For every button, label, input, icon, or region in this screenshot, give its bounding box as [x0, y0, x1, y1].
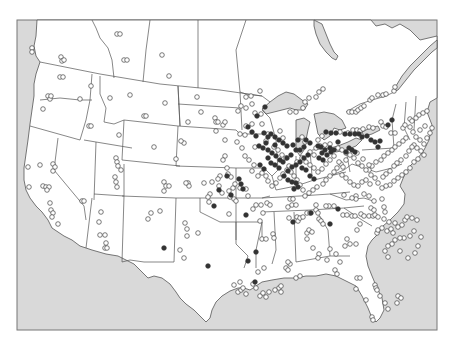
open-site-marker [361, 157, 366, 162]
open-site-marker [262, 266, 267, 271]
open-site-marker [321, 182, 326, 187]
open-site-marker [270, 184, 275, 189]
open-site-marker [115, 185, 120, 190]
open-site-marker [227, 212, 232, 217]
open-site-marker [382, 217, 387, 222]
open-site-marker [410, 119, 415, 124]
open-site-marker [264, 174, 269, 179]
open-site-marker [428, 131, 433, 136]
open-site-marker [368, 182, 373, 187]
open-site-marker [303, 194, 308, 199]
open-site-marker [404, 154, 409, 159]
open-site-marker [207, 200, 212, 205]
open-site-marker [342, 193, 347, 198]
open-site-marker [223, 120, 228, 125]
open-site-marker [354, 287, 359, 292]
open-site-marker [416, 244, 421, 249]
open-site-marker [301, 106, 306, 111]
open-site-marker [362, 192, 367, 197]
open-site-marker [286, 260, 291, 265]
open-site-marker [264, 295, 269, 300]
open-site-marker [247, 158, 252, 163]
open-site-marker [258, 89, 263, 94]
filled-site-marker [266, 156, 271, 161]
open-site-marker [78, 97, 83, 102]
open-site-marker [355, 228, 360, 233]
open-site-marker [391, 231, 396, 236]
open-site-marker [216, 120, 221, 125]
open-site-marker [250, 102, 255, 107]
open-site-marker [152, 145, 157, 150]
open-site-marker [258, 219, 263, 224]
open-site-marker [214, 129, 219, 134]
filled-site-marker [285, 156, 290, 161]
open-site-marker [410, 216, 415, 221]
open-site-marker [225, 166, 230, 171]
open-site-marker [266, 179, 271, 184]
open-site-marker [232, 283, 237, 288]
open-site-marker [114, 180, 119, 185]
filled-site-marker [304, 138, 309, 143]
filled-site-marker [343, 132, 348, 137]
open-site-marker [376, 93, 381, 98]
open-site-marker [53, 165, 58, 170]
filled-site-marker [254, 250, 259, 255]
filled-site-marker [308, 141, 313, 146]
filled-site-marker [298, 160, 303, 165]
filled-site-marker [253, 280, 258, 285]
open-site-marker [316, 256, 321, 261]
open-site-marker [312, 166, 317, 171]
open-site-marker [243, 133, 248, 138]
open-site-marker [314, 203, 319, 208]
open-site-marker [382, 154, 387, 159]
open-site-marker [30, 50, 35, 55]
filled-site-marker [261, 146, 266, 151]
open-site-marker [235, 140, 240, 145]
open-site-marker [61, 75, 66, 80]
open-site-marker [89, 124, 94, 129]
open-site-marker [399, 158, 404, 163]
open-site-marker [178, 248, 183, 253]
open-site-marker [254, 286, 259, 291]
open-site-marker [332, 204, 337, 209]
open-site-marker [393, 131, 398, 136]
open-site-marker [162, 189, 167, 194]
open-site-marker [412, 229, 417, 234]
open-site-marker [324, 162, 329, 167]
open-site-marker [272, 236, 277, 241]
open-site-marker [328, 158, 333, 163]
open-site-marker [260, 122, 265, 127]
open-site-marker [185, 227, 190, 232]
filled-site-marker [302, 156, 307, 161]
open-site-marker [375, 288, 380, 293]
open-site-marker [125, 58, 130, 63]
open-site-marker [386, 255, 391, 260]
open-site-marker [244, 292, 249, 297]
open-site-marker [314, 95, 319, 100]
open-site-marker [376, 215, 381, 220]
filled-site-marker [304, 168, 309, 173]
open-site-marker [99, 210, 104, 215]
open-site-marker [392, 164, 397, 169]
open-site-marker [369, 173, 374, 178]
open-site-marker [38, 163, 43, 168]
filled-site-marker [217, 188, 222, 193]
open-site-marker [210, 180, 215, 185]
open-site-marker [360, 164, 365, 169]
map-container [0, 0, 454, 343]
open-site-marker [119, 168, 124, 173]
open-site-marker [315, 185, 320, 190]
open-site-marker [303, 100, 308, 105]
open-site-marker [345, 213, 350, 218]
open-site-marker [356, 161, 361, 166]
open-site-marker [104, 241, 109, 246]
filled-site-marker [298, 148, 303, 153]
open-site-marker [264, 237, 269, 242]
filled-site-marker [291, 143, 296, 148]
open-site-marker [396, 176, 401, 181]
filled-site-marker [376, 145, 381, 150]
open-site-marker [234, 199, 239, 204]
filled-site-marker [360, 135, 365, 140]
open-site-marker [244, 106, 249, 111]
filled-site-marker [332, 148, 337, 153]
